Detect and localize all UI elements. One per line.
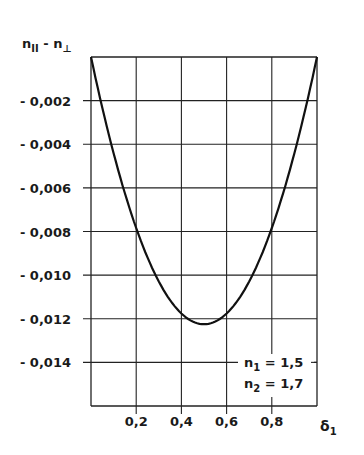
y-tick-label: - 0,010: [20, 268, 71, 283]
x-axis-title: δ1: [320, 418, 337, 437]
x-tick-label: 0,8: [260, 414, 283, 429]
y-tick-label: - 0,004: [20, 137, 71, 152]
y-tick-label: - 0,012: [20, 311, 71, 326]
annotation-n1: n1 = 1,5: [242, 355, 305, 376]
y-tick-label: - 0,006: [20, 180, 71, 195]
x-tick-label: 0,2: [125, 414, 148, 429]
data-curve: [91, 57, 317, 324]
x-tick-label: 0,6: [215, 414, 238, 429]
x-tick-label: 0,4: [170, 414, 193, 429]
y-tick-label: - 0,002: [20, 93, 71, 108]
annotation-n2: n2 = 1,7: [242, 376, 305, 397]
y-tick-label: - 0,008: [20, 224, 71, 239]
y-tick-label: - 0,014: [20, 355, 71, 370]
